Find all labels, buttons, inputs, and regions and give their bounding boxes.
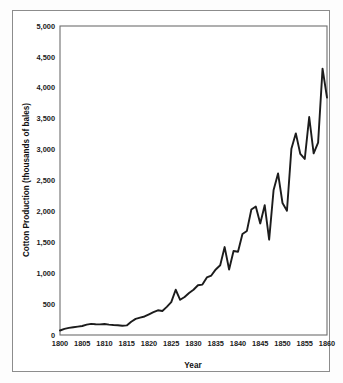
x-axis-tick-labels: 1800180518101815182018251830183518401845… xyxy=(52,339,335,348)
y-axis-tick-label: 3,500 xyxy=(37,114,56,123)
x-axis-tick-label: 1810 xyxy=(96,339,112,348)
y-axis-tick-label: 5,000 xyxy=(37,22,56,31)
figure-canvas: 05001,0001,5002,0002,5003,0003,5004,0004… xyxy=(0,0,343,383)
y-axis-tick-label: 500 xyxy=(43,300,55,309)
x-axis-tick-label: 1850 xyxy=(274,339,290,348)
cotton-production-line-chart: 05001,0001,5002,0002,5003,0003,5004,0004… xyxy=(0,0,343,383)
x-axis-tick-label: 1855 xyxy=(297,339,313,348)
y-axis-tick-label: 4,500 xyxy=(37,53,56,62)
y-axis-tick-label: 1,500 xyxy=(37,238,56,247)
y-axis-tick-label: 4,000 xyxy=(37,83,56,92)
x-axis-tick-label: 1805 xyxy=(74,339,90,348)
x-axis-tick-label: 1835 xyxy=(208,339,224,348)
x-axis-tick-label: 1845 xyxy=(252,339,268,348)
x-axis-tick-label: 1830 xyxy=(185,339,201,348)
x-axis-tick-label: 1815 xyxy=(119,339,135,348)
y-axis-title: Cotton Production (thousands of bales) xyxy=(22,103,31,257)
y-axis-tick-labels: 05001,0001,5002,0002,5003,0003,5004,0004… xyxy=(37,22,56,340)
x-axis-tick-label: 1800 xyxy=(52,339,68,348)
x-axis-tick-label: 1860 xyxy=(319,339,335,348)
x-axis-title: Year xyxy=(184,361,202,370)
y-axis-tick-label: 3,000 xyxy=(37,145,56,154)
y-axis-tick-label: 1,000 xyxy=(37,269,56,278)
x-axis-tick-label: 1840 xyxy=(230,339,246,348)
y-axis-tick-label: 2,500 xyxy=(37,176,56,185)
x-axis-tick-label: 1820 xyxy=(141,339,157,348)
y-axis-tick-label: 2,000 xyxy=(37,207,56,216)
x-axis-tick-label: 1825 xyxy=(163,339,179,348)
